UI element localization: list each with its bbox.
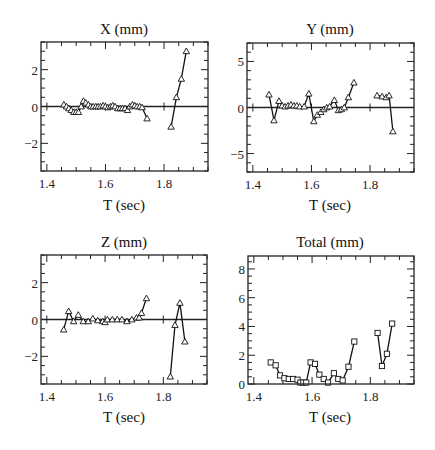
x-axis-label: T (sec) [309, 409, 351, 426]
triangle-marker [311, 118, 317, 124]
panel-title: Y (mm) [306, 21, 353, 38]
panel-title: X (mm) [100, 21, 148, 38]
square-marker [384, 351, 389, 356]
x-tick-label: 1.6 [304, 389, 321, 404]
y-tick-label: 5 [238, 54, 245, 69]
triangle-marker [182, 338, 188, 344]
plot-area: 1.41.61.8−505 [230, 43, 414, 192]
square-marker [390, 321, 395, 326]
x-tick-label: 1.8 [156, 176, 172, 191]
y-tick-label: −2 [24, 136, 38, 151]
y-tick-label: 4 [239, 319, 246, 334]
x-axis-label: T (sec) [103, 197, 145, 214]
figure: X (mm) 1.41.61.8−202 T (sec) Y (mm) 1.41… [0, 0, 435, 450]
y-tick-label: 0 [238, 101, 245, 116]
square-marker [352, 339, 357, 344]
square-marker [331, 371, 336, 376]
panel-total: Total (mm) 1.41.61.802468 T (sec) [239, 234, 415, 426]
triangle-marker [331, 97, 337, 103]
y-tick-label: −2 [24, 349, 38, 364]
square-marker [312, 361, 317, 366]
x-tick-label: 1.8 [155, 389, 171, 404]
x-axis-label: T (sec) [309, 197, 351, 214]
triangle-marker [351, 79, 357, 85]
triangle-marker [90, 315, 96, 321]
y-tick-label: 2 [239, 348, 246, 363]
y-tick-label: 2 [32, 63, 39, 78]
plot-area: 1.41.61.8−202 [24, 42, 208, 191]
data-series-line [170, 303, 185, 377]
triangle-marker [172, 322, 178, 328]
triangle-marker [144, 115, 150, 121]
x-tick-label: 1.6 [303, 177, 320, 192]
square-marker [268, 360, 273, 365]
triangle-marker [138, 310, 144, 316]
square-marker [375, 330, 380, 335]
panel-title: Total (mm) [296, 234, 364, 251]
x-tick-label: 1.8 [362, 389, 378, 404]
triangle-marker [168, 124, 174, 130]
y-tick-label: 8 [239, 262, 246, 277]
triangle-marker [61, 326, 67, 332]
square-marker [340, 378, 345, 383]
y-tick-label: 6 [239, 291, 246, 306]
triangle-marker [178, 76, 184, 82]
x-tick-label: 1.6 [97, 389, 114, 404]
square-marker [346, 364, 351, 369]
triangle-marker [276, 98, 282, 104]
triangle-marker [183, 48, 189, 54]
triangle-marker [374, 92, 380, 98]
x-tick-label: 1.8 [362, 177, 378, 192]
panel-title: Z (mm) [101, 234, 147, 251]
triangle-marker [266, 91, 272, 97]
y-tick-label: 0 [239, 377, 246, 392]
data-series-line [171, 51, 186, 127]
plot-area: 1.41.61.802468 [239, 256, 415, 404]
x-tick-label: 1.4 [245, 177, 262, 192]
x-tick-label: 1.4 [39, 176, 56, 191]
triangle-marker [65, 308, 71, 314]
panel-y: Y (mm) 1.41.61.8−505 T (sec) [230, 21, 414, 214]
data-series-line [377, 96, 393, 132]
plot-area: 1.41.61.8−202 [24, 255, 207, 404]
triangle-marker [390, 128, 396, 134]
panel-z: Z (mm) 1.41.61.8−202 T (sec) [24, 234, 207, 426]
square-marker [273, 363, 278, 368]
x-tick-label: 1.6 [97, 176, 114, 191]
triangle-marker [271, 117, 277, 123]
panel-x: X (mm) 1.41.61.8−202 T (sec) [24, 21, 208, 214]
y-tick-label: 0 [32, 313, 39, 328]
y-tick-label: 0 [32, 100, 39, 115]
triangle-marker [177, 300, 183, 306]
triangle-marker [143, 295, 149, 301]
x-tick-label: 1.4 [246, 389, 263, 404]
x-tick-label: 1.4 [39, 389, 56, 404]
y-tick-label: −5 [230, 147, 244, 162]
x-axis-label: T (sec) [103, 409, 145, 426]
y-tick-label: 2 [32, 276, 39, 291]
square-marker [379, 363, 384, 368]
triangle-marker [167, 373, 173, 379]
triangle-marker [173, 94, 179, 100]
triangle-marker [75, 312, 81, 318]
triangle-marker [345, 94, 351, 100]
triangle-marker [306, 90, 312, 96]
